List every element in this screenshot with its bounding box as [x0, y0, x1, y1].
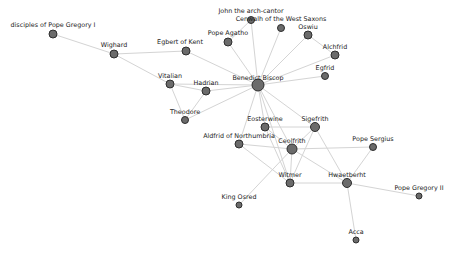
network-diagram: disciples of Pope Gregory IWighardEgbert…: [0, 0, 453, 257]
node-agatho[interactable]: [224, 38, 232, 46]
node-sergius[interactable]: [370, 144, 377, 151]
node-ceolfrith[interactable]: [287, 144, 297, 154]
node-label-wighard: Wighard: [101, 41, 128, 49]
node-theodore[interactable]: [182, 117, 189, 124]
node-label-theodore: Theodore: [169, 108, 200, 116]
node-label-egfrid: Egfrid: [316, 64, 335, 72]
nodes-layer: [49, 17, 422, 244]
edge-wighard-egbert: [114, 51, 186, 54]
node-label-benedict: Benedict Biscop: [232, 74, 283, 82]
node-label-sigefrith: Sigefrith: [301, 115, 328, 123]
node-label-hadrian: Hadrian: [193, 79, 218, 87]
node-vitalian[interactable]: [166, 80, 174, 88]
node-hwaetberht[interactable]: [343, 179, 352, 188]
node-label-oswiu: Oswiu: [298, 23, 317, 31]
node-label-john: John the arch-cantor: [217, 7, 284, 15]
node-egfrid[interactable]: [322, 73, 329, 80]
node-cenwalh[interactable]: [278, 25, 285, 32]
node-label-egbert: Egbert of Kent: [157, 38, 203, 46]
node-acca[interactable]: [353, 237, 359, 243]
node-label-witmer: Witmer: [278, 171, 302, 179]
node-hadrian[interactable]: [202, 87, 210, 95]
node-wighard[interactable]: [110, 50, 118, 58]
node-label-cenwalh: Cenwalh of the West Saxons: [236, 15, 327, 23]
node-label-gregory2: Pope Gregory II: [394, 184, 443, 192]
node-label-osred: King Osred: [222, 193, 257, 201]
node-label-acca: Acca: [348, 228, 363, 236]
edges-layer: [53, 20, 419, 240]
node-label-vitalian: Vitalian: [158, 72, 182, 80]
node-label-sergius: Pope Sergius: [352, 135, 394, 143]
node-oswiu[interactable]: [304, 31, 312, 39]
node-label-alchfrid: Alchfrid: [323, 43, 347, 51]
node-eosterwine[interactable]: [261, 123, 269, 131]
node-witmer[interactable]: [286, 179, 294, 187]
node-label-aldfrid: Aldfrid of Northumbria: [203, 132, 275, 140]
node-sigefrith[interactable]: [311, 123, 320, 132]
node-label-eosterwine: Eosterwine: [247, 115, 282, 123]
node-aldfrid[interactable]: [235, 140, 243, 148]
node-disciples[interactable]: [49, 30, 57, 38]
node-gregory2[interactable]: [416, 193, 422, 199]
node-egbert[interactable]: [182, 47, 190, 55]
node-alchfrid[interactable]: [331, 51, 339, 59]
node-osred[interactable]: [236, 202, 242, 208]
node-label-hwaetberht: Hwaetberht: [328, 171, 366, 179]
edge-ceolfrith-sergius: [292, 147, 373, 149]
node-label-agatho: Pope Agatho: [208, 29, 248, 37]
node-label-disciples: disciples of Pope Gregory I: [11, 21, 96, 29]
node-label-ceolfrith: Ceolfrith: [278, 137, 305, 145]
